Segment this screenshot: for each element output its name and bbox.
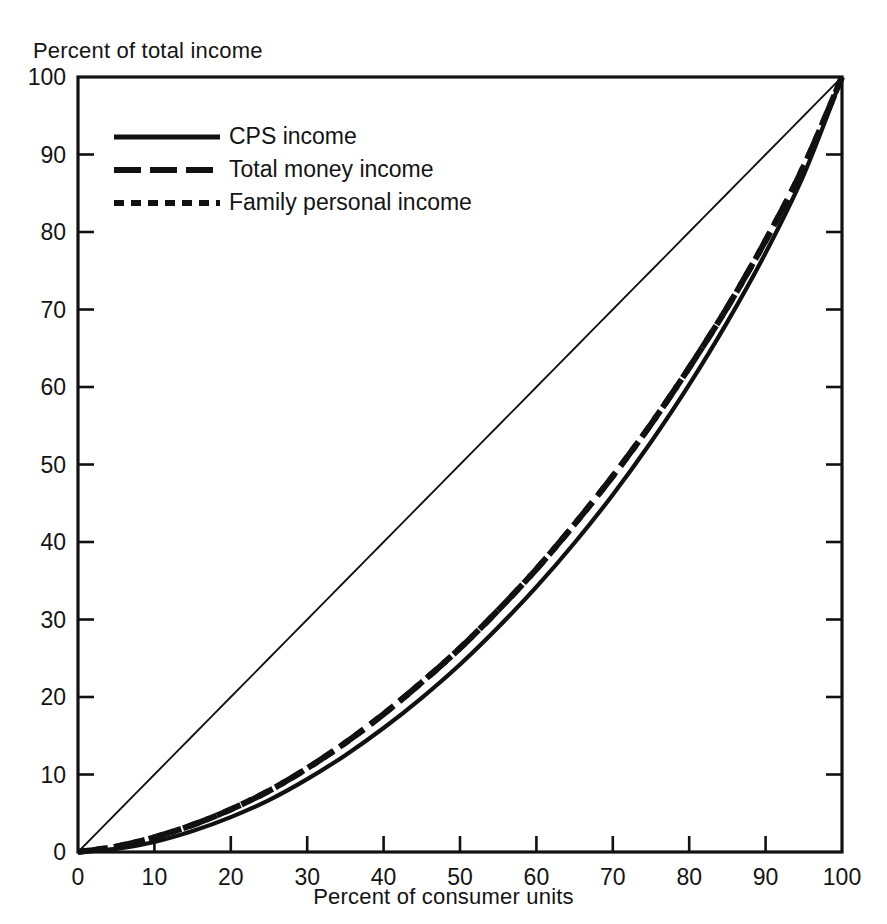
x-axis-tick-label: 40 (371, 864, 397, 891)
legend-label: CPS income (229, 125, 357, 148)
y-axis-tick-label: 10 (0, 761, 66, 788)
y-axis-tick-label: 100 (0, 64, 66, 91)
legend-label: Family personal income (229, 191, 472, 214)
x-axis-tick-label: 50 (447, 864, 473, 891)
legend-item-total-money-income: Total money income (113, 153, 472, 186)
x-axis-tick-label: 70 (600, 864, 626, 891)
legend-item-family-personal-income: Family personal income (113, 186, 472, 219)
lorenz-curve-chart: Percent of total income CPS income Total… (0, 0, 887, 924)
x-axis-tick-label: 80 (676, 864, 702, 891)
y-axis-tick-label: 40 (0, 529, 66, 556)
legend-swatch-solid (113, 128, 221, 146)
y-axis-tick-label: 80 (0, 219, 66, 246)
y-axis-tick-label: 60 (0, 374, 66, 401)
x-axis-tick-label: 0 (72, 864, 85, 891)
y-axis-tick-label: 30 (0, 606, 66, 633)
legend-swatch-long-dash (113, 161, 221, 179)
y-axis-tick-label: 0 (0, 839, 66, 866)
chart-legend: CPS income Total money income Family per… (113, 120, 472, 219)
legend-swatch-short-dash (113, 194, 221, 212)
y-axis-tick-label: 70 (0, 296, 66, 323)
x-axis-tick-label: 60 (524, 864, 550, 891)
y-axis-tick-label: 20 (0, 684, 66, 711)
legend-label: Total money income (229, 158, 434, 181)
legend-item-cps-income: CPS income (113, 120, 472, 153)
y-axis-tick-label: 90 (0, 141, 66, 168)
x-axis-tick-label: 10 (142, 864, 168, 891)
x-axis-tick-label: 20 (218, 864, 244, 891)
x-axis-tick-label: 100 (823, 864, 861, 891)
x-axis-tick-label: 90 (753, 864, 779, 891)
y-axis-title: Percent of total income (33, 38, 263, 64)
y-axis-tick-label: 50 (0, 451, 66, 478)
x-axis-tick-label: 30 (294, 864, 320, 891)
